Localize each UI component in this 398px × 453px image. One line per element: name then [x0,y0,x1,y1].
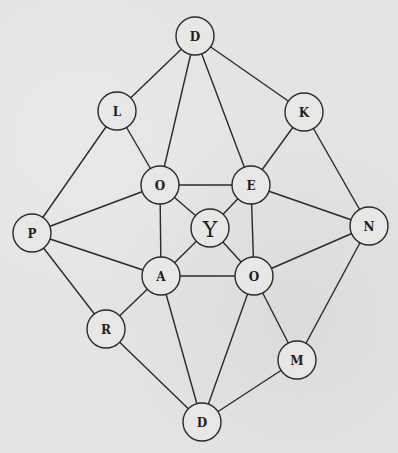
node-label: Y [202,217,218,242]
node-label: P [27,227,36,241]
edge-o-upper-p [32,185,160,233]
node-m: M [278,341,316,379]
node-label: E [246,179,255,193]
node-a: A [142,257,180,295]
node-y: Y [191,209,229,247]
node-o-upper: O [141,166,179,204]
node-label: L [113,105,122,119]
node-label: M [290,354,303,368]
node-label: R [101,323,112,337]
edge-n-m [297,226,369,360]
node-label: D [190,30,200,44]
edge-l-p [32,111,117,233]
edge-d-top-o-upper [160,36,195,185]
node-label: O [155,179,165,193]
node-label: O [249,270,259,284]
edge-a-d-bottom [161,276,202,422]
diagram-canvas: DLKOEYPNAORMD [0,0,398,453]
edge-o-lower-d-bottom [202,276,254,422]
node-d-top: D [176,17,214,55]
edge-p-a [32,233,161,276]
node-d-bottom: D [183,403,221,441]
nodes-layer: DLKOEYPNAORMD [13,17,388,441]
node-l: L [98,92,136,130]
node-label: K [299,106,310,120]
edge-r-d-bottom [106,329,202,422]
node-e: E [232,166,270,204]
edge-d-top-e [195,36,251,185]
node-r: R [87,310,125,348]
node-label: A [155,270,166,284]
node-p: P [13,214,51,252]
node-label: N [364,220,375,234]
graph-diagram: DLKOEYPNAORMD [0,0,398,453]
node-k: K [285,93,323,131]
node-o-lower: O [235,257,273,295]
edge-d-top-k [195,36,304,112]
node-label: D [197,416,207,430]
node-n: N [350,207,388,245]
